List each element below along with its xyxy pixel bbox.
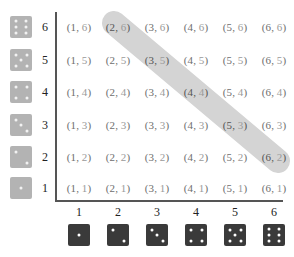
outcome-cell: (3, 5) [145, 54, 169, 66]
die-pip [234, 234, 237, 237]
row-die-4-icon [10, 81, 32, 103]
row-label: 5 [42, 53, 48, 68]
column-die-4-icon [185, 224, 207, 246]
outcome-second-value: 5 [121, 54, 127, 66]
outcome-cell: (2, 5) [106, 54, 130, 66]
outcome-cell: (3, 1) [145, 182, 169, 194]
vertical-axis-line [55, 12, 57, 202]
die-pip [25, 26, 28, 29]
outcome-second-value: 2 [121, 151, 127, 163]
row-label: 3 [42, 118, 48, 133]
die-pip [189, 239, 192, 242]
outcome-second-value: 6 [277, 21, 283, 33]
die-pip [267, 234, 270, 237]
outcome-second-value: 5 [277, 54, 283, 66]
outcome-cell: (6, 1) [262, 182, 286, 194]
outcome-second-value: 4 [160, 86, 166, 98]
outcome-second-value: 3 [277, 119, 283, 131]
outcome-cell: (1, 5) [67, 54, 91, 66]
outcome-cell: (4, 2) [184, 151, 208, 163]
die-pip [267, 240, 270, 243]
outcome-cell: (5, 3) [223, 119, 247, 131]
outcome-cell: (4, 5) [184, 54, 208, 66]
outcome-second-value: 5 [82, 54, 88, 66]
die-pip [20, 124, 23, 127]
outcome-cell: (5, 5) [223, 54, 247, 66]
die-pip [14, 150, 17, 153]
outcome-cell: (3, 6) [145, 21, 169, 33]
outcome-cell: (4, 4) [184, 86, 208, 98]
die-pip [20, 187, 23, 190]
die-pip [122, 239, 125, 242]
column-die-6-icon [263, 224, 285, 246]
column-die-2-icon [107, 224, 129, 246]
outcome-second-value: 1 [199, 182, 205, 194]
column-die-1-icon [68, 224, 90, 246]
outcome-cell: (1, 1) [67, 182, 91, 194]
outcome-second-value: 1 [277, 182, 283, 194]
outcome-second-value: 1 [82, 182, 88, 194]
die-pip [228, 228, 231, 231]
outcome-second-value: 4 [82, 86, 88, 98]
outcome-cell: (4, 6) [184, 21, 208, 33]
row-label: 1 [42, 181, 48, 196]
die-pip [111, 228, 114, 231]
row-die-1-icon [10, 177, 32, 199]
outcome-second-value: 1 [238, 182, 244, 194]
outcome-second-value: 6 [238, 21, 244, 33]
outcome-second-value: 3 [82, 119, 88, 131]
die-pip [200, 228, 203, 231]
die-pip [150, 228, 153, 231]
die-pip [239, 239, 242, 242]
column-die-5-icon [224, 224, 246, 246]
outcome-cell: (1, 6) [67, 21, 91, 33]
row-die-6-icon [10, 16, 32, 38]
outcome-second-value: 4 [121, 86, 127, 98]
die-pip [25, 129, 28, 132]
die-pip [14, 118, 17, 121]
outcome-second-value: 2 [199, 151, 205, 163]
die-pip [14, 26, 17, 29]
column-label: 2 [115, 205, 121, 220]
die-pip [25, 161, 28, 164]
row-die-3-icon [10, 114, 32, 136]
outcome-cell: (6, 4) [262, 86, 286, 98]
outcome-second-value: 1 [160, 182, 166, 194]
row-label: 2 [42, 150, 48, 165]
die-pip [14, 96, 17, 99]
outcome-second-value: 5 [238, 54, 244, 66]
outcome-second-value: 1 [121, 182, 127, 194]
outcome-second-value: 4 [199, 86, 205, 98]
die-pip [156, 234, 159, 237]
outcome-cell: (6, 2) [262, 151, 286, 163]
die-pip [25, 85, 28, 88]
outcome-second-value: 3 [238, 119, 244, 131]
outcome-second-value: 3 [121, 119, 127, 131]
die-pip [200, 239, 203, 242]
outcome-second-value: 6 [121, 21, 127, 33]
die-pip [228, 239, 231, 242]
die-pip [25, 32, 28, 35]
column-label: 3 [154, 205, 160, 220]
outcome-second-value: 2 [160, 151, 166, 163]
outcome-cell: (1, 3) [67, 119, 91, 131]
column-label: 5 [232, 205, 238, 220]
die-pip [278, 227, 281, 230]
die-pip [25, 53, 28, 56]
outcome-cell: (2, 3) [106, 119, 130, 131]
outcome-cell: (3, 2) [145, 151, 169, 163]
outcome-cell: (5, 6) [223, 21, 247, 33]
die-pip [14, 19, 17, 22]
outcome-cell: (5, 2) [223, 151, 247, 163]
outcome-second-value: 3 [160, 119, 166, 131]
die-pip [278, 240, 281, 243]
row-die-2-icon [10, 146, 32, 168]
row-label: 4 [42, 85, 48, 100]
outcome-cell: (3, 3) [145, 119, 169, 131]
outcome-cell: (5, 1) [223, 182, 247, 194]
column-label: 4 [193, 205, 199, 220]
die-pip [267, 227, 270, 230]
outcome-cell: (2, 4) [106, 86, 130, 98]
horizontal-axis-line [55, 200, 283, 202]
outcome-second-value: 2 [238, 151, 244, 163]
